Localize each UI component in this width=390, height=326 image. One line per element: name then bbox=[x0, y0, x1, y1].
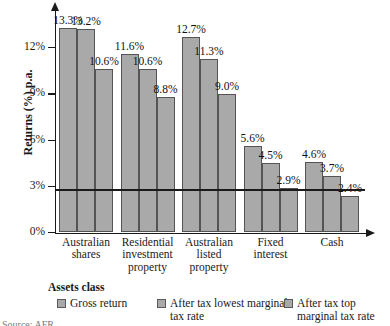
legend-item: After tax lowest marginaltax rate bbox=[157, 297, 288, 322]
y-axis-tick-label: 3% bbox=[5, 179, 45, 191]
bar-value-label: 2.4% bbox=[332, 182, 368, 194]
y-axis-tick bbox=[48, 93, 55, 94]
legend-swatch-icon bbox=[284, 299, 293, 308]
bar bbox=[59, 28, 77, 233]
y-axis-tick-label: 0% bbox=[5, 225, 45, 237]
bar-value-label: 5.6% bbox=[235, 132, 271, 144]
y-axis-title: Returns (%) p.a. bbox=[21, 43, 36, 183]
y-axis-tick-label: 9% bbox=[5, 86, 45, 98]
bar-value-label: 10.6% bbox=[130, 55, 166, 67]
bar-value-label: 10.6% bbox=[86, 55, 122, 67]
bar-value-label: 12.7% bbox=[173, 23, 209, 35]
y-axis-tick bbox=[48, 232, 55, 233]
x-axis-label-line: interest bbox=[231, 248, 311, 260]
legend-swatch-icon bbox=[157, 299, 166, 308]
clipped-source-caption: Source: AFR bbox=[2, 319, 54, 326]
legend-item: Gross return bbox=[57, 297, 127, 310]
bar-chart-figure: Returns (%) p.a. 0%3%6%9%12% 13.3%13.2%1… bbox=[0, 0, 390, 326]
x-axis-label-line: property bbox=[169, 261, 249, 273]
legend-label-line: marginal tax rate bbox=[297, 310, 375, 323]
y-axis-tick bbox=[48, 140, 55, 141]
bar bbox=[121, 54, 139, 233]
legend-label-line: Gross return bbox=[70, 297, 127, 310]
bar bbox=[95, 69, 113, 232]
bar-value-label: 11.6% bbox=[112, 40, 148, 52]
bar-value-label: 9.0% bbox=[209, 80, 245, 92]
bar bbox=[182, 37, 200, 233]
legend-swatch-icon bbox=[57, 299, 66, 308]
y-axis-tick-label: 12% bbox=[5, 40, 45, 52]
legend-label-line: After tax top bbox=[297, 297, 375, 310]
plot-area: 13.3%13.2%10.6%11.6%10.6%8.8%12.7%11.3%9… bbox=[55, 10, 375, 233]
bar-value-label: 13.2% bbox=[68, 15, 104, 27]
bar-value-label: 8.8% bbox=[148, 83, 184, 95]
y-axis-tick-label: 6% bbox=[5, 133, 45, 145]
bar-value-label: 11.3% bbox=[191, 45, 227, 57]
bar bbox=[157, 97, 175, 233]
bar bbox=[218, 94, 236, 233]
y-axis-tick bbox=[48, 186, 55, 187]
bar-value-label: 3.7% bbox=[314, 162, 350, 174]
legend-item: After tax topmarginal tax rate bbox=[284, 297, 375, 322]
bar-value-label: 4.6% bbox=[296, 148, 332, 160]
y-axis-tick bbox=[48, 47, 55, 48]
bar-value-label: 2.9% bbox=[271, 174, 307, 186]
bar bbox=[341, 196, 359, 233]
legend-label-line: After tax lowest marginal bbox=[170, 297, 288, 310]
bar bbox=[280, 188, 298, 233]
reference-line bbox=[55, 189, 365, 190]
legend-label-line: tax rate bbox=[170, 310, 288, 323]
x-axis-label-line: Cash bbox=[292, 236, 372, 248]
x-axis-category-label: Cash bbox=[292, 236, 372, 248]
bar-value-label: 4.5% bbox=[253, 149, 289, 161]
legend-title: Assets class bbox=[48, 281, 105, 293]
